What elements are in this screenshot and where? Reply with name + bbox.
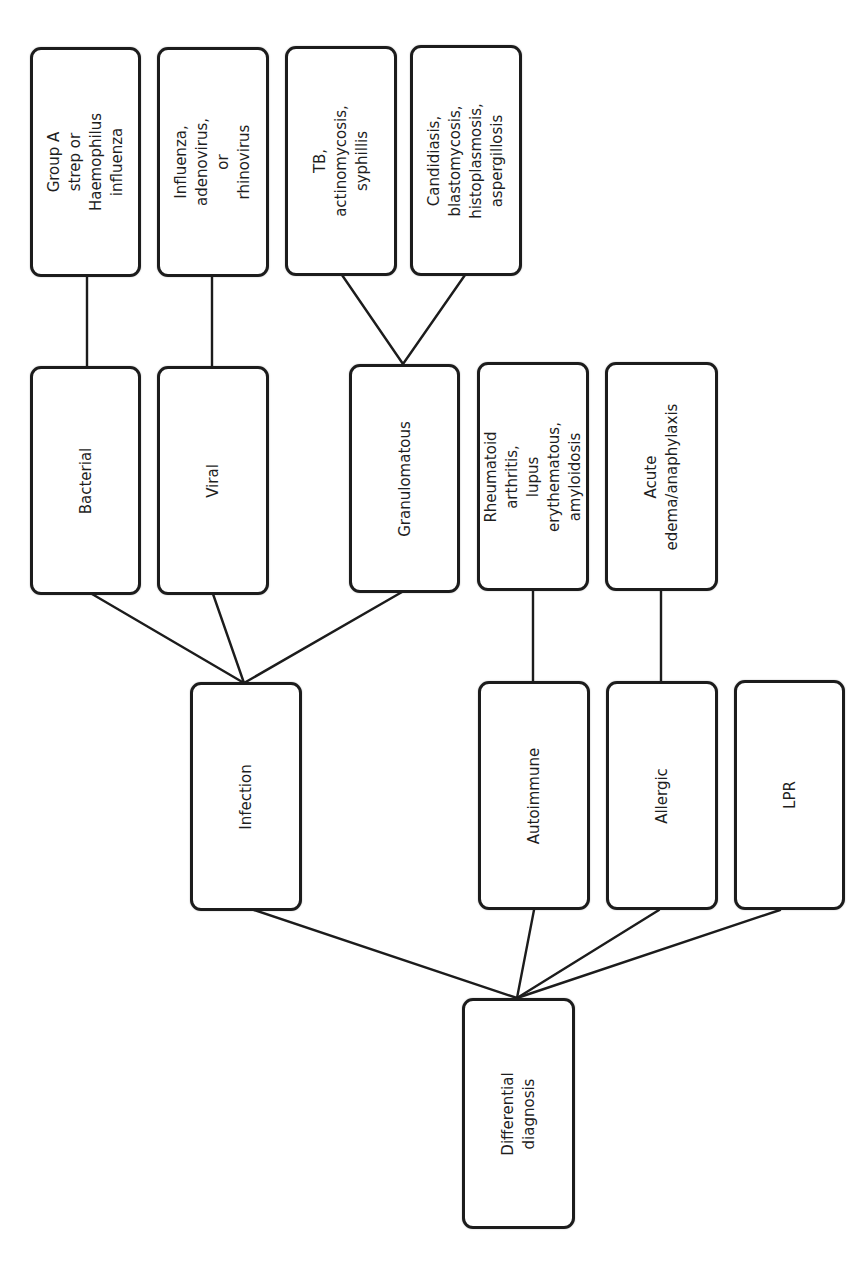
node-granulomatous: Granulomatous [349,364,460,593]
node-label: Autoimmune [524,747,545,843]
node-granulomatous-fungal-causes: Candidiasis, blastomycosis, histoplasmos… [410,45,522,276]
node-label: Bacterial [75,447,96,514]
clipped-figure-caption [852,700,864,1260]
node-viral: Viral [157,366,269,595]
edge-granulomatous-fungal [403,275,465,364]
node-autoimmune-causes: Rheumatoid arthritis, lupus erythematous… [477,362,589,591]
node-infection: Infection [190,682,302,911]
node-allergic-causes: Acute edema/anaphylaxis [605,362,718,591]
edge-infection-granulomatous [244,592,402,683]
node-label: Infection [236,764,257,829]
edge-root-allergic [517,910,659,998]
node-lpr: LPR [734,680,845,910]
node-label: Differential diagnosis [498,1072,540,1155]
node-viral-causes: Influenza, adenovirus, or rhinovirus [157,47,269,277]
node-label: Candidiasis, blastomycosis, histoplasmos… [424,103,508,219]
node-allergic: Allergic [606,681,718,910]
node-differential-diagnosis: Differential diagnosis [462,998,575,1229]
edge-infection-bacterial [92,594,244,683]
node-label: LPR [779,781,800,809]
edge-infection-viral [213,594,244,683]
edge-root-lpr [517,910,780,998]
node-label: Group A strep or Haemophilus influenza [44,113,128,211]
node-autoimmune: Autoimmune [478,681,590,910]
node-granulomatous-bacterial-causes: TB, actinomycosis, syphillis [285,46,397,276]
node-label: Influenza, adenovirus, or rhinovirus [171,118,255,206]
edge-granulomatous-tb [342,275,403,364]
node-label: Rheumatoid arthritis, lupus erythematous… [481,422,586,532]
node-label: Granulomatous [394,421,415,537]
node-bacterial: Bacterial [30,366,141,595]
edge-root-infection [254,910,517,998]
edge-root-autoimmune [517,910,534,998]
node-label: TB, actinomycosis, syphillis [310,105,373,217]
differential-diagnosis-tree: Group A strep or Haemophilus influenza I… [0,0,864,1267]
node-label: Allergic [652,768,673,824]
node-label: Acute edema/anaphylaxis [641,403,683,550]
node-bacterial-causes: Group A strep or Haemophilus influenza [30,47,141,277]
node-label: Viral [203,464,224,498]
